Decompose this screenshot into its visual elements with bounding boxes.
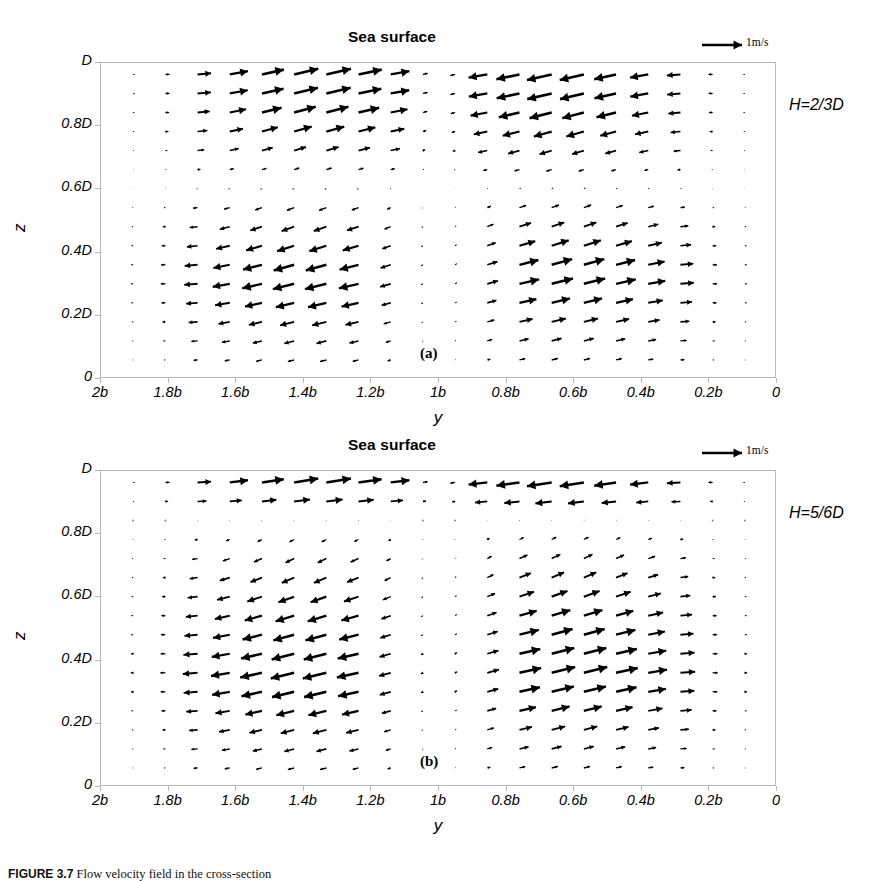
velocity-vector bbox=[255, 208, 262, 211]
velocity-vector bbox=[230, 69, 248, 77]
x-tick-label: 0.4b bbox=[611, 792, 671, 808]
velocity-vector bbox=[713, 244, 717, 247]
velocity-vector bbox=[487, 649, 498, 654]
velocity-vector bbox=[616, 705, 633, 712]
velocity-vector bbox=[455, 340, 456, 341]
velocity-vector bbox=[359, 146, 370, 151]
velocity-vector bbox=[161, 302, 165, 305]
velocity-vector bbox=[243, 633, 262, 641]
plot-panel-b: Sea surface1m/sH=5/6DD0.8D0.6D0.4D0.2D02… bbox=[0, 440, 889, 850]
y-tick-label: 0.4D bbox=[22, 242, 92, 258]
velocity-vector bbox=[351, 559, 359, 563]
x-tick-mark bbox=[506, 786, 507, 791]
velocity-vector bbox=[648, 574, 658, 578]
velocity-vector bbox=[552, 221, 565, 226]
x-tick-label: 1.2b bbox=[340, 384, 400, 400]
velocity-vector bbox=[584, 239, 601, 246]
velocity-vector bbox=[471, 111, 488, 118]
velocity-vector bbox=[391, 147, 400, 151]
velocity-vector bbox=[680, 243, 691, 248]
velocity-vector bbox=[710, 500, 713, 503]
velocity-vector bbox=[667, 91, 680, 97]
velocity-vector bbox=[455, 596, 456, 597]
velocity-vector bbox=[423, 481, 428, 484]
velocity-vector bbox=[288, 768, 294, 771]
velocity-vector bbox=[326, 476, 351, 485]
velocity-vector bbox=[288, 360, 294, 363]
velocity-vector bbox=[163, 576, 166, 579]
velocity-vector bbox=[630, 91, 648, 99]
velocity-vector bbox=[359, 67, 382, 76]
velocity-vector bbox=[184, 282, 197, 288]
x-tick-mark bbox=[641, 378, 642, 383]
velocity-vector bbox=[294, 85, 318, 94]
velocity-vector bbox=[322, 540, 327, 542]
velocity-vector bbox=[616, 555, 624, 559]
velocity-vector bbox=[380, 634, 390, 639]
velocity-vector bbox=[680, 280, 693, 286]
velocity-vector bbox=[584, 725, 597, 731]
velocity-vector bbox=[230, 88, 248, 96]
velocity-vector bbox=[421, 284, 423, 285]
velocity-vector bbox=[294, 105, 316, 114]
velocity-vector bbox=[161, 690, 166, 693]
velocity-vector bbox=[475, 499, 487, 504]
velocity-vector bbox=[225, 767, 230, 770]
velocity-vector bbox=[616, 205, 623, 208]
velocity-vector bbox=[450, 74, 455, 77]
velocity-vector bbox=[616, 572, 627, 577]
velocity-vector bbox=[708, 481, 712, 484]
velocity-vector bbox=[165, 500, 168, 503]
velocity-vector bbox=[215, 301, 230, 307]
velocity-vector bbox=[272, 653, 294, 662]
velocity-vector bbox=[245, 709, 262, 716]
velocity-vector bbox=[519, 746, 528, 750]
figure-caption: FIGURE 3.7 Flow velocity field in the cr… bbox=[8, 866, 883, 881]
velocity-vector bbox=[215, 614, 230, 620]
velocity-vector bbox=[422, 149, 425, 152]
velocity-vector bbox=[198, 149, 205, 152]
velocity-vector bbox=[421, 635, 423, 636]
velocity-vector bbox=[383, 597, 391, 601]
velocity-vector bbox=[713, 282, 718, 285]
y-tick-mark bbox=[95, 660, 100, 661]
velocity-vector bbox=[487, 319, 494, 322]
velocity-vector bbox=[584, 221, 596, 226]
velocity-vector bbox=[421, 246, 423, 247]
velocity-vector bbox=[584, 590, 600, 597]
x-tick-label: 0.4b bbox=[611, 384, 671, 400]
velocity-vector bbox=[616, 338, 625, 342]
velocity-vector bbox=[163, 225, 166, 228]
velocity-vector bbox=[680, 767, 684, 770]
velocity-vector bbox=[519, 277, 539, 286]
velocity-vector bbox=[184, 633, 197, 639]
velocity-vector bbox=[308, 301, 326, 309]
velocity-vector bbox=[388, 767, 391, 770]
velocity-vector bbox=[190, 577, 198, 580]
velocity-vector bbox=[161, 614, 165, 617]
velocity-vector bbox=[421, 303, 423, 304]
velocity-vector bbox=[680, 206, 685, 209]
velocity-vector bbox=[636, 499, 648, 504]
velocity-vector bbox=[519, 685, 539, 694]
velocity-vector bbox=[340, 263, 359, 271]
velocity-vector bbox=[160, 671, 165, 674]
velocity-vector bbox=[326, 105, 348, 114]
velocity-vector bbox=[648, 338, 656, 341]
velocity-vector bbox=[527, 74, 552, 83]
velocity-vector bbox=[596, 111, 616, 120]
velocity-vector bbox=[552, 725, 565, 731]
velocity-vector bbox=[347, 226, 359, 231]
velocity-vector bbox=[272, 691, 294, 700]
velocity-vector bbox=[326, 146, 338, 151]
velocity-vector bbox=[271, 672, 294, 681]
velocity-vector bbox=[245, 615, 262, 623]
velocity-vector bbox=[496, 73, 519, 82]
velocity-vector bbox=[616, 188, 617, 189]
velocity-vector bbox=[744, 690, 747, 693]
velocity-vector bbox=[519, 338, 528, 342]
velocity-vector bbox=[616, 222, 628, 227]
arrow-right-icon bbox=[700, 446, 746, 460]
velocity-vector bbox=[648, 278, 665, 285]
velocity-vector bbox=[680, 538, 683, 541]
